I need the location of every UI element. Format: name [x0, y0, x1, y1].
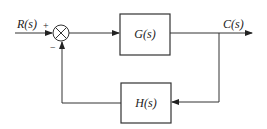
forward-block-label: G(s) — [134, 27, 155, 41]
summing-junction — [53, 25, 69, 41]
feedback-takeoff-line — [172, 33, 219, 102]
feedback-block-label: H(s) — [134, 96, 156, 110]
output-label: C(s) — [223, 17, 244, 31]
input-label: R(s) — [16, 17, 37, 31]
minus-sign: − — [50, 42, 56, 53]
feedback-return-line — [62, 42, 121, 103]
plus-sign: + — [43, 20, 49, 31]
block-diagram: R(s) + − G(s) C(s) H(s) — [0, 0, 267, 129]
